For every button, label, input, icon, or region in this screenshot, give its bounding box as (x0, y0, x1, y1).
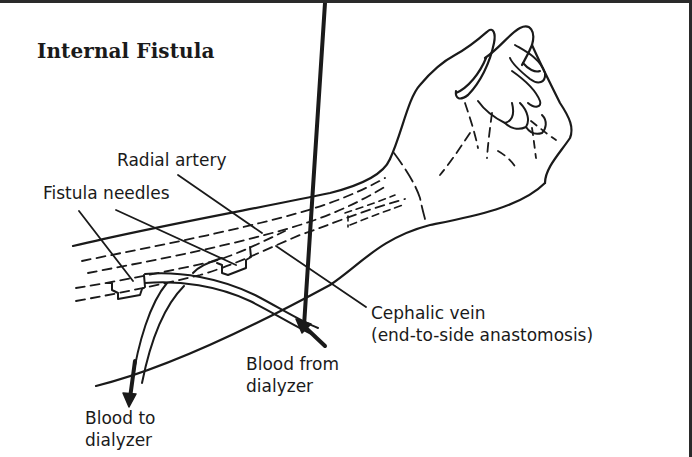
label-fistula-needles: Fistula needles (43, 182, 170, 204)
fistula-needle-hub-right (217, 247, 251, 275)
arrow-blood-to-dialyzer-shaft (130, 361, 135, 398)
label-blood-from-line1: Blood from (246, 353, 339, 375)
label-cephalic-vein: Cephalic vein (end-to-side anastomosis) (371, 302, 593, 346)
leader-fistula-needle-right (116, 210, 236, 265)
leader-radial-artery (178, 175, 262, 233)
tubing-down-outer (132, 283, 167, 383)
hand-outline (390, 30, 495, 159)
label-cephalic-vein-line2: (end-to-side anastomosis) (371, 324, 593, 346)
diagram-frame: Internal Fistula Radial artery Fistula n… (0, 0, 692, 457)
tubing-down-inner (142, 286, 184, 383)
finger-knuckle-1 (478, 101, 513, 123)
label-blood-from-line2: dialyzer (246, 375, 339, 397)
label-blood-to-line1: Blood to (85, 407, 155, 429)
palm-crease-1 (465, 103, 478, 148)
wrist-crease (394, 153, 425, 219)
leader-fistula-needle-left (79, 211, 133, 281)
index-finger-outline (485, 27, 533, 65)
label-cephalic-vein-line1: Cephalic vein (371, 302, 593, 324)
label-radial-artery: Radial artery (117, 149, 227, 171)
label-blood-to-line2: dialyzer (85, 429, 155, 451)
palm-crease-5 (531, 121, 556, 140)
palm-right-edge (532, 45, 572, 183)
arrow-blood-to-dialyzer-head (123, 393, 136, 407)
palm-crease-4 (498, 151, 516, 168)
leader-cephalic-vein (276, 246, 366, 307)
label-blood-from-dialyzer: Blood from dialyzer (246, 353, 339, 397)
finger-knuckle-2 (505, 103, 528, 129)
arrow-blood-from-dialyzer-shaft-2 (306, 328, 325, 346)
palm-crease-2 (487, 113, 492, 158)
forearm-fistula-illustration (0, 3, 692, 457)
fingertip-nail (523, 63, 540, 72)
palm-crease-3 (440, 133, 470, 175)
diagram-title: Internal Fistula (37, 39, 214, 63)
label-blood-to-dialyzer: Blood to dialyzer (85, 407, 155, 451)
